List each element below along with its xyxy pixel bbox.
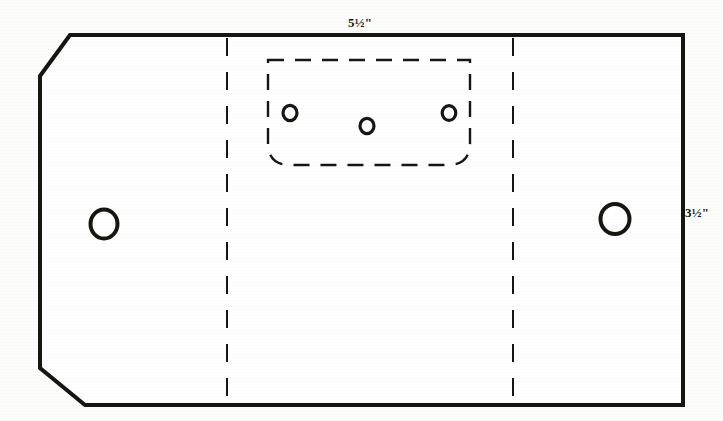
pattern-diagram	[0, 0, 723, 421]
dimension-label-height: 3½"	[685, 205, 709, 221]
pattern-outline	[40, 35, 683, 405]
dimension-label-width: 5½"	[348, 15, 372, 31]
drawing-page: 5½" 3½"	[0, 0, 723, 421]
